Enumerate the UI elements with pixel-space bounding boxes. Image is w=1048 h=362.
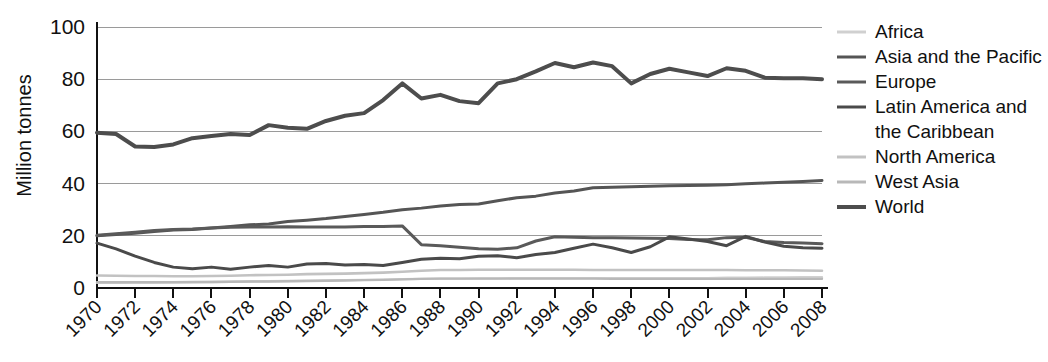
y-tick-label: 0	[73, 276, 85, 299]
legend-label-latin-america-and: Latin America and	[875, 96, 1027, 117]
x-tick-label: 2004	[710, 296, 755, 341]
x-tick-label: 2006	[748, 296, 793, 341]
series-line-world	[97, 63, 822, 148]
chart-canvas: 020406080100 197019721974197619781980198…	[0, 0, 1048, 362]
legend-label-asia-and-the-pacific: Asia and the Pacific	[875, 46, 1042, 67]
line-chart-figure: 020406080100 197019721974197619781980198…	[0, 0, 1048, 362]
x-axis-tick-labels: 1970197219741976197819801982198419861988…	[61, 296, 831, 341]
legend-label-africa: Africa	[875, 21, 924, 42]
y-tick-label: 80	[62, 67, 85, 90]
x-tick-label: 2008	[786, 296, 831, 341]
y-axis-title: Million tonnes	[13, 74, 35, 196]
x-tick-label: 1972	[99, 296, 144, 341]
y-tick-label: 20	[62, 224, 85, 247]
x-tick-label: 1988	[405, 296, 450, 341]
x-tick-label: 1970	[61, 296, 106, 341]
series-line-europe	[97, 226, 822, 249]
x-tick-label: 1974	[137, 296, 182, 341]
y-tick-label: 40	[62, 172, 85, 195]
series-line-west-asia	[97, 279, 822, 283]
y-axis-tick-labels: 020406080100	[50, 15, 85, 299]
x-tick-label: 1980	[252, 296, 297, 341]
legend-label-the-caribbean: the Caribbean	[875, 121, 994, 142]
x-tick-label: 2002	[672, 296, 717, 341]
x-tick-label: 1986	[366, 296, 411, 341]
x-tick-label: 1994	[519, 296, 564, 341]
series-line-north-america	[97, 270, 822, 277]
x-tick-label: 1990	[443, 296, 488, 341]
x-tick-label: 2000	[633, 296, 678, 341]
y-axis-title-text: Million tonnes	[13, 74, 35, 196]
x-tick-label: 1982	[290, 296, 335, 341]
data-series	[97, 63, 822, 283]
x-tick-label: 1984	[328, 296, 373, 341]
legend-label-north-america: North America	[875, 146, 996, 167]
series-line-latin-america-and-the-caribbean	[97, 236, 822, 269]
x-tick-label: 1976	[176, 296, 221, 341]
y-tick-label: 100	[50, 15, 85, 38]
legend-label-europe: Europe	[875, 71, 936, 92]
x-tick-label: 1992	[481, 296, 526, 341]
x-tick-label: 1978	[214, 296, 259, 341]
x-tick-label: 1998	[595, 296, 640, 341]
y-tick-label: 60	[62, 119, 85, 142]
legend-label-world: World	[875, 196, 924, 217]
legend-label-west-asia: West Asia	[875, 171, 960, 192]
chart-legend: AfricaAsia and the PacificEuropeLatin Am…	[837, 21, 1042, 217]
x-tick-label: 1996	[557, 296, 602, 341]
